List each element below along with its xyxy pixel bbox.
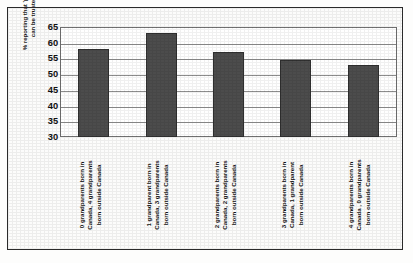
bar-slot: [195, 27, 262, 137]
x-axis-label-0: 0 grandparents born in Canada, 4 grandpa…: [78, 143, 110, 247]
y-axis-tick-65: 65: [48, 22, 58, 32]
y-axis-tick-60: 60: [48, 38, 58, 48]
y-axis-tick-30: 30: [48, 132, 58, 142]
plot-area-wrapper: [60, 27, 397, 137]
x-label-slot: 0 grandparents born in Canada, 4 grandpa…: [60, 139, 127, 251]
y-axis-tick-45: 45: [48, 85, 58, 95]
x-axis-category-labels: 0 grandparents born in Canada, 4 grandpa…: [60, 139, 397, 251]
x-label-slot: 1 grandparent born in Canada, 3 grandpar…: [127, 139, 194, 251]
bar-slot: [60, 27, 127, 137]
bar-series: [60, 27, 397, 137]
bar-slot: [330, 27, 397, 137]
y-axis-tick-40: 40: [48, 101, 58, 111]
bar-slot: [262, 27, 329, 137]
bar-4: [348, 65, 379, 137]
bar-1: [146, 33, 177, 137]
y-axis-tick-labels: 6560555045403530: [32, 27, 58, 137]
x-axis-label-3: 3 grandparents born in Canada, 1 grandpa…: [280, 143, 312, 247]
y-axis-tick-35: 35: [48, 116, 58, 126]
x-label-slot: 3 grandparents born in Canada, 1 grandpa…: [262, 139, 329, 251]
chart-page: % reporting that 'people can be trusted'…: [0, 0, 413, 263]
chart-frame: % reporting that 'people can be trusted'…: [7, 7, 403, 250]
x-axis-label-2: 2 grandparents born in Canada, 2 grandpa…: [213, 143, 245, 247]
x-axis-label-1: 1 grandparent born in Canada, 3 grandpar…: [145, 143, 177, 247]
y-axis-tick-50: 50: [48, 69, 58, 79]
x-label-slot: 4 grandparents born in Canada , 0 grandp…: [330, 139, 397, 251]
bar-0: [78, 49, 109, 137]
y-axis-tick-55: 55: [48, 53, 58, 63]
bar-2: [213, 52, 244, 137]
x-label-slot: 2 grandparents born in Canada, 2 grandpa…: [195, 139, 262, 251]
bar-3: [280, 60, 311, 137]
y-axis-title: % reporting that 'people can be trusted': [17, 0, 39, 22]
bar-slot: [127, 27, 194, 137]
x-axis-label-4: 4 grandparents born in Canada , 0 grandp…: [347, 143, 379, 247]
